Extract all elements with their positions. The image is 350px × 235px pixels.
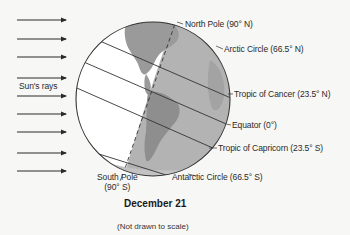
diagram-title: December 21 [124, 198, 186, 209]
scale-note: (Not drawn to scale) [117, 222, 189, 231]
south-pole-label-degrees: (90° S) [97, 182, 138, 192]
arctic-circle-label: Arctic Circle (66.5° N) [224, 44, 304, 54]
equator-label: Equator (0°) [232, 120, 277, 130]
south-pole-label-name: South Pole [97, 172, 138, 182]
sun-rays-arrows [17, 20, 66, 171]
tropic-cancer-label: Tropic of Cancer (23.5° N) [234, 89, 330, 99]
south-pole-label: South Pole (90° S) [97, 172, 138, 192]
seasons-diagram: Sun's rays North Pole (90° N) Arctic Cir… [0, 0, 350, 235]
north-pole-label: North Pole (90° N) [185, 19, 253, 29]
tropic-capricorn-label: Tropic of Capricorn (23.5° S) [218, 143, 323, 153]
globe [70, 0, 240, 198]
antarctic-circle-label: Antarctic Circle (66.5° S) [172, 172, 263, 182]
sun-rays-label: Sun's rays [19, 81, 57, 91]
